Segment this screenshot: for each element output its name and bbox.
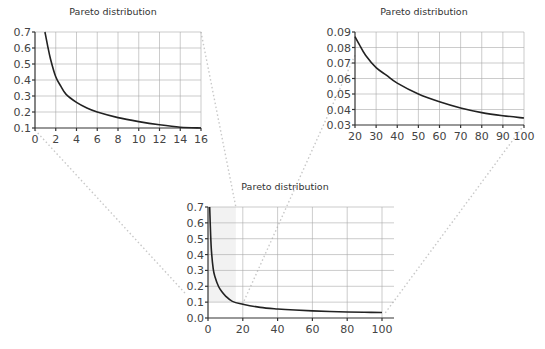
y-tick-label: 0.7 <box>187 201 205 214</box>
y-tick-label: 0.2 <box>187 280 205 293</box>
y-tick-label: 0.3 <box>14 90 32 103</box>
y-tick-label: 0.3 <box>187 264 205 277</box>
y-tick-label: 0.4 <box>187 249 205 262</box>
y-tick-label: 0.6 <box>14 42 32 55</box>
x-tick-label: 16 <box>194 133 208 146</box>
x-tick-label: 14 <box>173 133 187 146</box>
chart-zoom-right: Pareto distribution20304050607080901000.… <box>327 6 535 143</box>
y-tick-label: 0.4 <box>14 74 32 87</box>
y-tick-label: 0.1 <box>187 296 205 309</box>
x-tick-label: 4 <box>73 133 80 146</box>
y-tick-label: 0.0 <box>187 312 205 325</box>
y-tick-label: 0.05 <box>327 88 352 101</box>
y-tick-label: 0.7 <box>14 26 32 39</box>
x-tick-label: 60 <box>305 323 319 336</box>
x-tick-label: 0 <box>32 133 39 146</box>
y-tick-label: 0.06 <box>327 73 352 86</box>
x-tick-label: 30 <box>369 130 383 143</box>
x-tick-label: 50 <box>411 130 425 143</box>
x-tick-label: 70 <box>454 130 468 143</box>
x-tick-label: 60 <box>433 130 447 143</box>
y-tick-label: 0.5 <box>187 233 205 246</box>
x-tick-label: 20 <box>236 323 250 336</box>
y-tick-label: 0.07 <box>327 57 352 70</box>
chart-zoom-left: Pareto distribution02468101214160.10.20.… <box>14 6 209 146</box>
connector-line <box>201 32 236 207</box>
chart-title: Pareto distribution <box>69 6 156 17</box>
y-tick-label: 0.09 <box>327 26 352 39</box>
y-tick-label: 0.03 <box>327 119 352 132</box>
x-tick-label: 2 <box>52 133 59 146</box>
x-tick-label: 80 <box>475 130 489 143</box>
y-tick-label: 0.1 <box>14 122 32 135</box>
chart-title: Pareto distribution <box>241 181 328 192</box>
y-tick-label: 0.5 <box>14 58 32 71</box>
y-tick-label: 0.08 <box>327 42 352 55</box>
connector-line <box>35 130 186 294</box>
y-tick-label: 0.2 <box>14 106 32 119</box>
x-tick-label: 8 <box>115 133 122 146</box>
zoom-connectors <box>35 32 524 313</box>
x-tick-label: 6 <box>94 133 101 146</box>
chart-title: Pareto distribution <box>380 6 467 17</box>
x-tick-label: 80 <box>340 323 354 336</box>
x-tick-label: 100 <box>372 323 393 336</box>
connector-line <box>385 125 524 313</box>
y-tick-label: 0.04 <box>327 104 352 117</box>
pareto-zoom-figure: Pareto distribution02468101214160.10.20.… <box>0 0 545 349</box>
x-tick-label: 40 <box>390 130 404 143</box>
x-tick-label: 40 <box>271 323 285 336</box>
y-tick-label: 0.6 <box>187 217 205 230</box>
x-tick-label: 90 <box>496 130 510 143</box>
x-tick-label: 10 <box>132 133 146 146</box>
chart-canvas: Pareto distribution02468101214160.10.20.… <box>0 0 545 349</box>
x-tick-label: 0 <box>205 323 212 336</box>
x-tick-label: 100 <box>514 130 535 143</box>
x-tick-label: 12 <box>153 133 167 146</box>
